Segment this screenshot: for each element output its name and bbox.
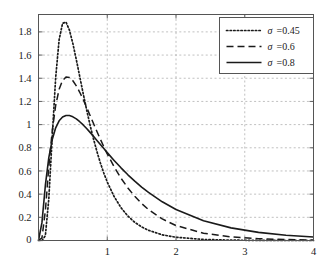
- y-tick-label-0.8: 0.8: [18, 142, 31, 153]
- y-tick-label-1.6: 1.6: [18, 50, 31, 61]
- x-tick-label-4: 4: [311, 246, 317, 257]
- legend-sigma-value-1: =0.6: [277, 41, 295, 52]
- chart-figure: 1234 00.20.40.60.811.21.41.61.8 σ=0.45σ=…: [0, 0, 327, 270]
- origin-label: 0: [26, 234, 31, 245]
- chart-legend: σ=0.45σ=0.6σ=0.8: [220, 18, 314, 74]
- y-tick-label-1: 1: [26, 119, 31, 130]
- y-tick-label-1.2: 1.2: [18, 96, 31, 107]
- y-tick-label-1.8: 1.8: [18, 26, 31, 37]
- x-tick-label-3: 3: [242, 246, 247, 257]
- y-tick-label-1.4: 1.4: [18, 73, 32, 84]
- y-tick-label-0.2: 0.2: [18, 212, 31, 223]
- x-tick-label-2: 2: [173, 246, 178, 257]
- legend-sigma-value-2: =0.8: [277, 57, 295, 68]
- x-tick-label-1: 1: [105, 246, 110, 257]
- y-tick-label-0.4: 0.4: [18, 189, 32, 200]
- y-tick-label-0.6: 0.6: [18, 166, 31, 177]
- legend-sigma-value-0: =0.45: [277, 25, 300, 36]
- pdf-line-chart: 1234 00.20.40.60.811.21.41.61.8 σ=0.45σ=…: [0, 0, 327, 270]
